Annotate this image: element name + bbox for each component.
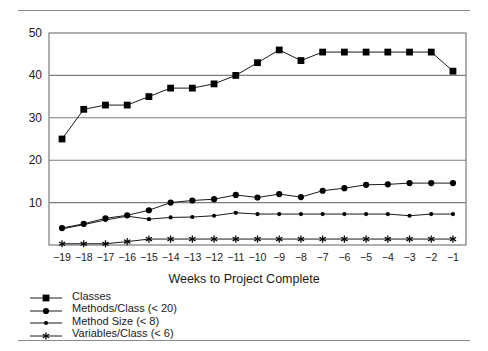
legend-marker-square-icon [28, 290, 64, 302]
data-point-marker [189, 197, 195, 203]
legend-item-3: Variables/Class (< 6) [28, 328, 268, 341]
data-point-marker [341, 185, 347, 191]
data-point-marker [342, 212, 346, 216]
data-point-marker [321, 212, 325, 216]
data-point-marker [102, 102, 109, 109]
data-point-marker [211, 80, 218, 87]
data-point-marker [254, 59, 261, 66]
legend-label: Variables/Class (< 6) [72, 328, 174, 339]
data-point-marker [298, 194, 304, 200]
data-point-marker [254, 194, 260, 200]
x-axis-tick-label: −15 [140, 252, 158, 263]
x-axis-tick-label: −19 [53, 252, 71, 263]
y-axis-tick-label: 10 [14, 197, 42, 209]
x-axis-tick-label: −5 [360, 252, 372, 263]
legend-marker-circle-large-icon [28, 303, 64, 315]
series-1 [59, 180, 456, 231]
data-point-marker [298, 57, 305, 64]
data-point-marker [169, 215, 173, 219]
x-axis-tick-label: −6 [338, 252, 350, 263]
x-axis-tick-label: −16 [118, 252, 136, 263]
data-point-marker [232, 72, 239, 79]
data-point-marker [384, 49, 391, 56]
legend-label: Classes [72, 291, 111, 302]
y-axis-tick-label: 40 [14, 69, 42, 81]
data-point-marker [299, 212, 303, 216]
data-point-marker [146, 207, 152, 213]
data-point-marker [80, 106, 87, 113]
x-axis-tick-label: −13 [183, 252, 201, 263]
data-point-marker [43, 308, 49, 314]
data-point-marker [82, 223, 86, 227]
x-axis-tick-label: −2 [425, 252, 437, 263]
legend-label: Methods/Class (< 20) [72, 303, 177, 314]
chart-figure: 1020304050 −19−18−17−16−15−14−13−12−11−1… [0, 0, 488, 351]
x-axis-tick-label: −12 [205, 252, 223, 263]
data-point-marker [276, 47, 283, 54]
y-axis-tick-label: 50 [14, 27, 42, 39]
data-point-marker [385, 181, 391, 187]
data-point-marker [190, 215, 194, 219]
data-point-marker [429, 212, 433, 216]
data-point-marker [363, 182, 369, 188]
legend-item-0: Classes [28, 290, 268, 303]
series-2 [60, 211, 455, 231]
data-point-marker [406, 49, 413, 56]
y-axis-tick-label: 30 [14, 112, 42, 124]
data-point-marker [43, 295, 50, 302]
y-axis-tick-label: 20 [14, 154, 42, 166]
x-axis-tick-label: −14 [162, 252, 180, 263]
data-point-marker [60, 227, 64, 231]
x-axis-tick-label: −4 [382, 252, 394, 263]
legend-marker-circle-small-icon [28, 315, 64, 327]
data-point-marker [364, 212, 368, 216]
data-point-marker [233, 192, 239, 198]
data-point-marker [450, 68, 457, 75]
x-axis-tick-label: −10 [249, 252, 267, 263]
data-point-marker [212, 214, 216, 218]
legend-item-1: Methods/Class (< 20) [28, 303, 268, 316]
chart-legend: ClassesMethods/Class (< 20)Method Size (… [28, 290, 268, 340]
data-point-marker [167, 85, 174, 92]
data-point-marker [428, 180, 434, 186]
data-point-marker [59, 136, 66, 143]
data-point-marker [147, 217, 151, 221]
data-point-marker [234, 211, 238, 215]
data-point-marker [386, 212, 390, 216]
data-point-marker [450, 180, 456, 186]
data-point-marker [319, 49, 326, 56]
data-point-marker [189, 85, 196, 92]
x-axis-tick-label: −8 [295, 252, 307, 263]
data-point-marker [168, 200, 174, 206]
x-axis-tick-label: −1 [447, 252, 459, 263]
legend-item-2: Method Size (< 8) [28, 315, 268, 328]
data-point-marker [146, 93, 153, 100]
x-axis-tick-label: −11 [227, 252, 244, 263]
data-point-marker [277, 212, 281, 216]
legend-label: Method Size (< 8) [72, 316, 159, 327]
x-axis-tick-label: −7 [317, 252, 329, 263]
legend-marker-asterisk-icon [28, 328, 64, 340]
data-point-marker [428, 49, 435, 56]
x-axis-tick-label: −18 [75, 252, 93, 263]
data-point-marker [44, 321, 48, 325]
data-point-marker [124, 102, 131, 109]
data-point-marker [363, 49, 370, 56]
data-point-marker [276, 191, 282, 197]
data-point-marker [406, 180, 412, 186]
data-point-marker [407, 214, 411, 218]
legend-swatch-canvas [28, 330, 64, 342]
x-axis-tick-label: −9 [273, 252, 285, 263]
data-point-marker [103, 218, 107, 222]
x-axis-tick-label: −17 [97, 252, 115, 263]
x-axis-title: Weeks to Project Complete [0, 272, 488, 286]
data-point-marker [255, 212, 259, 216]
data-point-marker [451, 212, 455, 216]
data-point-marker [211, 196, 217, 202]
series-0 [59, 47, 457, 143]
series-line [62, 183, 453, 228]
data-point-marker [341, 49, 348, 56]
data-point-marker [320, 188, 326, 194]
x-axis-tick-label: −3 [404, 252, 416, 263]
data-point-marker [125, 214, 129, 218]
